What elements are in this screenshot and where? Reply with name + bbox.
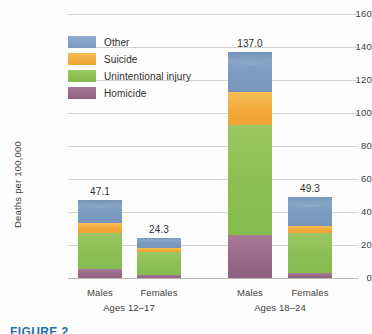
- x-group-label-ages-18-24: Ages 18–24: [210, 302, 350, 313]
- bar-top-scoop-highlight: [137, 238, 181, 242]
- bar-females-12-17: [137, 238, 181, 278]
- y-axis-title: Deaths per 100,000: [12, 141, 23, 228]
- bar-top-scoop-highlight: [228, 52, 272, 65]
- legend-item-other: Other: [68, 34, 191, 50]
- legend-label-homicide: Homicide: [104, 88, 146, 99]
- bar-segment-suicide: [137, 248, 181, 252]
- x-group-label-ages-12-17: Ages 12–17: [59, 302, 199, 313]
- legend-item-unintentional-injury: Unintentional injury: [68, 68, 191, 84]
- gridline-160: [68, 14, 358, 15]
- bar-segment-unintentional-injury: [228, 125, 272, 236]
- bar-segment-suicide: [288, 226, 332, 232]
- legend-label-unintentional-injury: Unintentional injury: [104, 71, 191, 82]
- bar-segment-suicide: [78, 223, 122, 233]
- bar-value-females-12-17: 24.3: [129, 224, 189, 235]
- bar-value-females-18-24: 49.3: [280, 183, 340, 194]
- bar-top-scoop-highlight: [288, 197, 332, 207]
- y-tick-120: 120: [332, 74, 372, 85]
- bar-segment-suicide: [228, 92, 272, 125]
- bar-segment-unintentional-injury: [288, 233, 332, 273]
- legend: Other Suicide Unintentional injury Homic…: [68, 34, 191, 102]
- x-tick-females-12-17: Females: [124, 287, 194, 298]
- y-tick-80: 80: [332, 140, 372, 151]
- legend-swatch-unintentional-injury-icon: [68, 70, 96, 82]
- bar-segment-homicide: [288, 273, 332, 278]
- legend-swatch-other-icon: [68, 36, 96, 48]
- legend-swatch-homicide-icon: [68, 87, 96, 99]
- y-tick-160: 160: [332, 8, 372, 19]
- gridline-80: [68, 146, 358, 147]
- figure-caption: FIGURE 2: [10, 325, 69, 334]
- y-tick-20: 20: [332, 239, 372, 250]
- bar-segment-homicide: [78, 269, 122, 278]
- y-tick-100: 100: [332, 107, 372, 118]
- y-tick-0: 0: [332, 272, 372, 283]
- bar-segment-other: [228, 52, 272, 92]
- bar-males-12-17: [78, 200, 122, 278]
- bar-value-males-12-17: 47.1: [70, 186, 130, 197]
- gridline-100: [68, 113, 358, 114]
- bar-segment-other: [137, 238, 181, 248]
- legend-swatch-suicide-icon: [68, 53, 96, 65]
- bar-segment-unintentional-injury: [137, 252, 181, 274]
- gridline-baseline-0: [68, 278, 358, 279]
- bar-females-18-24: [288, 197, 332, 278]
- bar-males-18-24: [228, 52, 272, 278]
- gridline-60: [68, 179, 358, 180]
- bar-segment-other: [288, 197, 332, 227]
- y-tick-140: 140: [332, 41, 372, 52]
- y-tick-40: 40: [332, 206, 372, 217]
- legend-item-suicide: Suicide: [68, 51, 191, 67]
- legend-label-suicide: Suicide: [104, 54, 138, 65]
- bar-segment-unintentional-injury: [78, 233, 122, 269]
- bar-segment-other: [78, 200, 122, 222]
- bar-segment-homicide: [228, 235, 272, 278]
- legend-label-other: Other: [104, 37, 130, 48]
- bar-value-males-18-24: 137.0: [220, 38, 280, 49]
- x-tick-females-18-24: Females: [275, 287, 345, 298]
- bar-segment-homicide: [137, 275, 181, 278]
- legend-item-homicide: Homicide: [68, 85, 191, 101]
- bar-top-scoop-highlight: [78, 200, 122, 208]
